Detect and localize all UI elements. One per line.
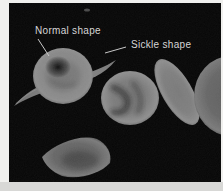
frame-bottom-strip (0, 182, 223, 191)
micrograph: Normal shape Sickle shape (0, 0, 223, 191)
sickle-shape-label: Sickle shape (131, 39, 191, 50)
normal-shape-label: Normal shape (35, 25, 101, 36)
micrograph-figure: Normal shape Sickle shape (0, 0, 223, 191)
